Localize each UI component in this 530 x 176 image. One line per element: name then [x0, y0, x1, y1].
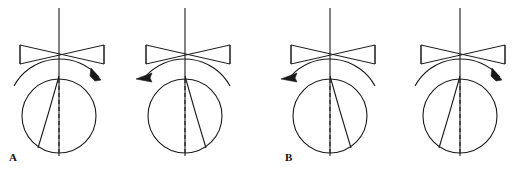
clockwise-rotation-arc [14, 59, 99, 86]
counter-clockwise-rotation-arc [145, 59, 230, 86]
figure-container: A B [0, 0, 530, 176]
panel-label-a: A [9, 152, 17, 163]
counter-clockwise-rotation-arc [290, 59, 375, 86]
tilted-chord-line [38, 76, 59, 148]
bowtie-right-wing [333, 45, 375, 64]
counter-clockwise-rotation-arrowhead [281, 73, 297, 82]
diagram-3 [281, 8, 375, 156]
counter-clockwise-rotation-arrowhead [136, 73, 152, 82]
diagram-1 [14, 8, 104, 156]
bowtie-left-wing [20, 45, 62, 64]
bowtie-left-wing [146, 45, 188, 64]
panel-label-b: B [285, 152, 292, 163]
tilted-chord-line [330, 76, 351, 148]
clockwise-rotation-arrowhead [491, 68, 502, 81]
schematic-diagram-svg [0, 0, 530, 176]
bowtie-left-wing [421, 45, 463, 64]
bowtie-right-wing [62, 45, 104, 64]
tilted-chord-line [439, 76, 460, 148]
clockwise-rotation-arrowhead [90, 68, 101, 81]
tilted-chord-line [185, 76, 206, 148]
diagram-4 [415, 8, 505, 156]
diagram-2 [136, 8, 230, 156]
bowtie-right-wing [463, 45, 505, 64]
clockwise-rotation-arc [415, 59, 500, 86]
bowtie-left-wing [291, 45, 333, 64]
bowtie-right-wing [188, 45, 230, 64]
